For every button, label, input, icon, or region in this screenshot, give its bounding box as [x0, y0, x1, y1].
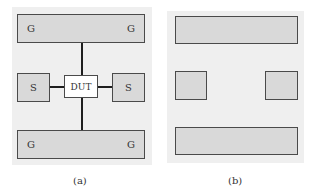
- ground-label-bottom-left: G: [27, 140, 35, 150]
- signal-label-right: S: [125, 83, 132, 93]
- ground-label-bottom-right: G: [127, 140, 135, 150]
- connector-line-vertical-top: [81, 43, 83, 75]
- signal-pad-left: S: [17, 73, 50, 102]
- ground-label-top-right: G: [127, 24, 135, 34]
- connector-line-vertical-bottom: [81, 98, 83, 130]
- ground-label-top-left: G: [27, 24, 35, 34]
- dut-label: DUT: [71, 82, 92, 92]
- caption-b: (b): [228, 176, 242, 186]
- pad-right-b: [265, 71, 298, 100]
- ground-pad-bottom: G G: [17, 130, 145, 159]
- connector-line-horizontal-right: [98, 86, 112, 88]
- pad-bottom-b: [175, 127, 298, 155]
- caption-a: (a): [73, 176, 87, 186]
- device-under-test: DUT: [64, 75, 98, 98]
- ground-pad-top: G G: [17, 14, 145, 43]
- connector-line-horizontal-left: [50, 86, 64, 88]
- signal-pad-right: S: [112, 73, 145, 102]
- pad-top-b: [175, 16, 298, 44]
- signal-label-left: S: [30, 83, 37, 93]
- pad-left-b: [175, 71, 207, 100]
